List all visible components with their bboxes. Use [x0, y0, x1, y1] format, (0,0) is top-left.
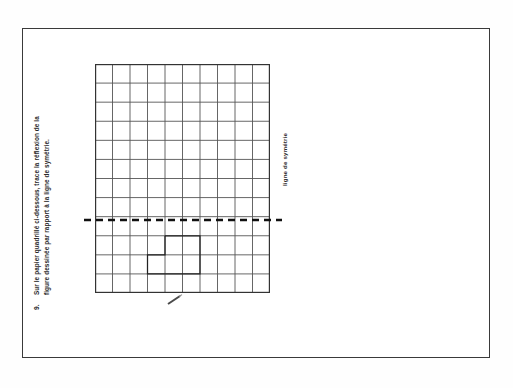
- worksheet-page: 9. Sur le papier quadrillé ci-dessous, t…: [0, 0, 513, 388]
- symmetry-line-label: ligne de symétrie: [281, 133, 288, 186]
- grid-lines: [95, 64, 270, 293]
- question-block: 9. Sur le papier quadrillé ci-dessous, t…: [32, 60, 76, 310]
- question-text: Sur le papier quadrillé ci-dessous, trac…: [32, 116, 51, 295]
- symmetry-line: [84, 217, 282, 223]
- question-text-line-1: Sur le papier quadrillé ci-dessous, trac…: [32, 116, 42, 295]
- grid-svg: [95, 64, 270, 293]
- grid-paper: [95, 64, 270, 293]
- pencil-mark-icon: [166, 294, 184, 306]
- question-number: 9.: [32, 304, 42, 310]
- question-text-line-2: figure dessinée par rapport à la ligne d…: [42, 116, 52, 295]
